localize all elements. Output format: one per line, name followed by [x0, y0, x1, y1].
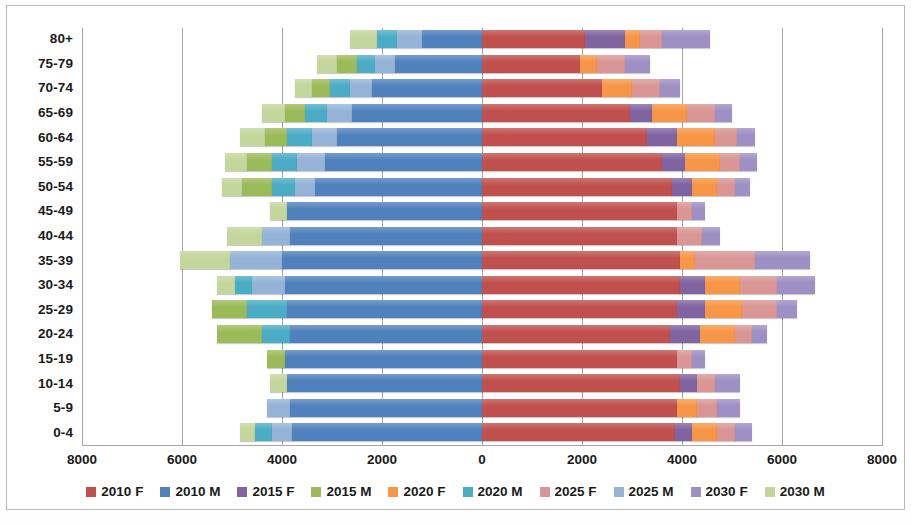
y-axis-label-15-19: 15-19 — [7, 351, 73, 366]
female-stack-25-29 — [482, 300, 797, 318]
bar-segment — [265, 128, 288, 146]
bar-segment — [715, 374, 740, 392]
legend-item-2025-f[interactable]: 2025 F — [540, 484, 597, 499]
bar-segment — [777, 276, 815, 294]
bar-segment — [705, 276, 740, 294]
male-stack-25-29 — [212, 300, 482, 318]
male-stack-80+ — [350, 30, 483, 48]
bar-segment — [337, 128, 482, 146]
male-stack-35-39 — [180, 251, 483, 269]
legend-item-2010-f[interactable]: 2010 F — [86, 484, 143, 499]
bar-segment — [585, 30, 625, 48]
bar-segment — [262, 227, 290, 245]
bar-row — [82, 102, 882, 124]
bar-segment — [212, 300, 247, 318]
bar-segment — [357, 55, 375, 73]
bar-segment — [180, 251, 230, 269]
bar-segment — [377, 30, 397, 48]
bar-segment — [742, 300, 777, 318]
y-axis-label-40-44: 40-44 — [7, 228, 73, 243]
bar-segment — [660, 79, 680, 97]
legend-item-2020-f[interactable]: 2020 F — [388, 484, 445, 499]
bar-segment — [735, 178, 750, 196]
bar-segment — [697, 374, 715, 392]
bar-row — [82, 151, 882, 173]
male-stack-60-64 — [240, 128, 483, 146]
bar-row — [82, 126, 882, 148]
y-axis-label-10-14: 10-14 — [7, 376, 73, 391]
female-stack-15-19 — [482, 350, 705, 368]
bar-segment — [717, 399, 740, 417]
bar-segment — [630, 104, 653, 122]
bar-segment — [692, 350, 705, 368]
bar-segment — [285, 104, 305, 122]
legend-item-2030-m[interactable]: 2030 M — [765, 484, 825, 499]
bar-segment — [672, 178, 692, 196]
bar-segment — [282, 251, 482, 269]
bar-segment — [482, 128, 647, 146]
female-stack-40-44 — [482, 227, 720, 245]
legend-item-2010-m[interactable]: 2010 M — [160, 484, 220, 499]
male-stack-75-79 — [317, 55, 482, 73]
male-stack-40-44 — [227, 227, 482, 245]
legend-swatch-icon — [765, 487, 775, 497]
bar-segment — [677, 300, 705, 318]
bar-segment — [297, 153, 325, 171]
bar-segment — [625, 30, 640, 48]
bar-segment — [482, 399, 677, 417]
legend-item-2015-f[interactable]: 2015 F — [237, 484, 294, 499]
bar-segment — [677, 227, 702, 245]
male-stack-10-14 — [270, 374, 483, 392]
y-axis-label-60-64: 60-64 — [7, 130, 73, 145]
bar-segment — [482, 374, 680, 392]
bar-row — [82, 348, 882, 370]
y-axis-label-75-79: 75-79 — [7, 56, 73, 71]
bar-segment — [717, 178, 735, 196]
legend-item-2015-m[interactable]: 2015 M — [311, 484, 371, 499]
bar-segment — [677, 202, 692, 220]
legend-swatch-icon — [311, 487, 321, 497]
y-axis-label-65-69: 65-69 — [7, 105, 73, 120]
x-axis-label-8: 8000 — [837, 452, 911, 467]
bar-segment — [482, 227, 677, 245]
bar-segment — [705, 300, 743, 318]
female-stack-65-69 — [482, 104, 732, 122]
legend-label: 2010 F — [101, 484, 143, 499]
male-stack-55-59 — [225, 153, 483, 171]
bar-segment — [735, 423, 753, 441]
chart-legend: 2010 F2010 M2015 F2015 M2020 F2020 M2025… — [7, 484, 904, 499]
bar-segment — [715, 104, 733, 122]
bar-segment — [482, 104, 630, 122]
bar-segment — [350, 30, 378, 48]
bar-segment — [270, 374, 288, 392]
legend-item-2030-f[interactable]: 2030 F — [691, 484, 748, 499]
legend-item-2025-m[interactable]: 2025 M — [614, 484, 674, 499]
bar-segment — [482, 251, 680, 269]
bar-row — [82, 176, 882, 198]
bar-segment — [680, 276, 705, 294]
legend-label: 2015 M — [326, 484, 371, 499]
y-axis-label-70-74: 70-74 — [7, 80, 73, 95]
bar-segment — [580, 55, 598, 73]
male-stack-50-54 — [222, 178, 482, 196]
bar-segment — [295, 79, 313, 97]
bar-segment — [685, 153, 720, 171]
female-stack-50-54 — [482, 178, 750, 196]
x-axis-label-2: 4000 — [237, 452, 327, 467]
bar-segment — [315, 178, 483, 196]
bar-row — [82, 200, 882, 222]
bar-segment — [327, 104, 352, 122]
x-axis-label-0: 8000 — [37, 452, 127, 467]
legend-label: 2030 M — [780, 484, 825, 499]
bar-segment — [632, 79, 660, 97]
bar-row — [82, 77, 882, 99]
y-axis-label-35-39: 35-39 — [7, 253, 73, 268]
bar-segment — [677, 128, 715, 146]
male-stack-30-34 — [217, 276, 482, 294]
bar-segment — [290, 325, 483, 343]
legend-label: 2025 M — [629, 484, 674, 499]
legend-label: 2025 F — [555, 484, 597, 499]
y-axis-label-5-9: 5-9 — [7, 400, 73, 415]
bar-segment — [272, 423, 292, 441]
legend-item-2020-m[interactable]: 2020 M — [463, 484, 523, 499]
